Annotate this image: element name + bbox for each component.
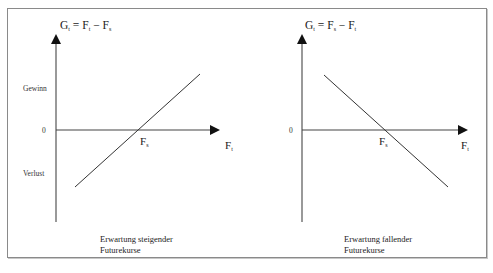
formula-minus: − F <box>90 19 109 31</box>
left-chart <box>56 36 218 222</box>
left-zero-label: 0 <box>42 127 46 135</box>
left-caption-line2: Futurekurse <box>100 245 173 256</box>
right-x-axis-label: Ft <box>461 140 469 152</box>
fs-sub: s <box>385 142 387 148</box>
fs-sub: s <box>146 142 148 148</box>
formula-second-sub: s <box>109 26 111 32</box>
left-caption: Erwartung steigender Futurekurse <box>100 234 173 256</box>
formula-eq: = F <box>70 19 89 31</box>
formula-second-sub: t <box>355 26 357 32</box>
left-x-axis-label: Ft <box>225 140 233 152</box>
right-payoff-line <box>324 75 448 187</box>
right-zero-label: 0 <box>289 127 293 135</box>
diagram-canvas <box>0 0 493 273</box>
formula-eq: = F <box>315 19 334 31</box>
left-loss-label: Verlust <box>23 170 44 178</box>
right-caption: Erwartung fallender Futurekurse <box>344 234 412 256</box>
right-caption-line1: Erwartung fallender <box>344 234 412 245</box>
right-caption-line2: Futurekurse <box>344 245 412 256</box>
left-formula: Gt = Ft − Fs <box>60 20 111 32</box>
ft-sub: t <box>231 146 233 152</box>
ft-sub: t <box>467 146 469 152</box>
right-formula: Gt = Fs − Ft <box>305 20 356 32</box>
left-caption-line1: Erwartung steigender <box>100 234 173 245</box>
right-chart <box>302 36 466 222</box>
left-gain-label: Gewinn <box>23 85 47 93</box>
right-intersection-label: Fs <box>379 136 387 148</box>
left-intersection-label: Fs <box>140 136 148 148</box>
formula-minus: − F <box>336 19 355 31</box>
